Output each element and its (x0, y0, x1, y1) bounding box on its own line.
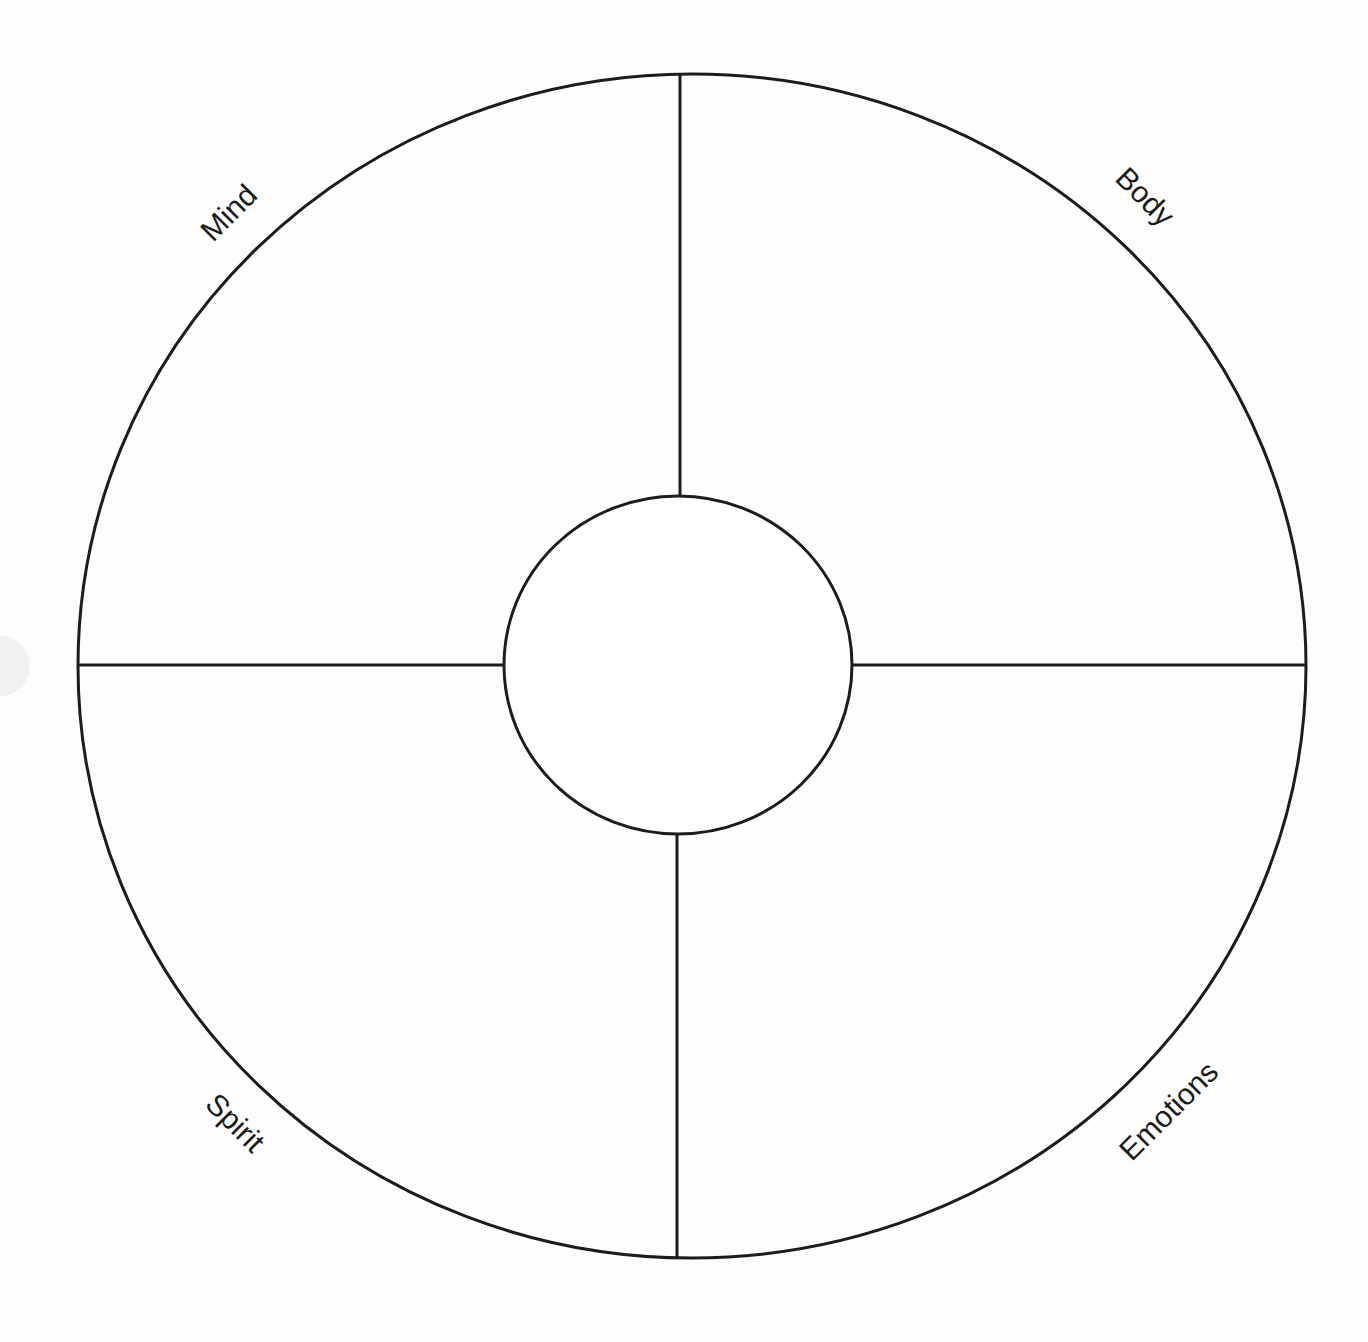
inner-circle (504, 496, 852, 834)
quadrant-label-mind: Mind (194, 178, 263, 247)
quadrant-label-emotions: Emotions (1113, 1055, 1225, 1167)
quadrant-label-body: Body (1110, 161, 1182, 233)
quadrant-label-spirit: Spirit (200, 1087, 272, 1159)
wellness-wheel-diagram: Mind Body Spirit Emotions (0, 0, 1368, 1342)
